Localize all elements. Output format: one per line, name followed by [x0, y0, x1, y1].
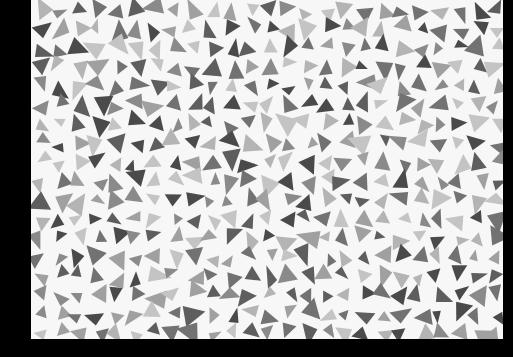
- triangle-mosaic-pattern: [31, 0, 503, 339]
- mosaic-sheet: [31, 0, 503, 339]
